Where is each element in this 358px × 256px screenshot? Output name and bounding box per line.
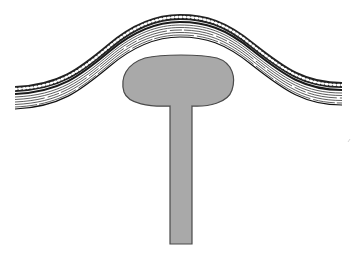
diagram-canvas: [0, 0, 358, 256]
diapir-cross-section-diagram: [0, 0, 358, 256]
diapir-shape: [123, 55, 234, 244]
speck-mark: [348, 139, 350, 142]
diapir: [123, 55, 234, 244]
